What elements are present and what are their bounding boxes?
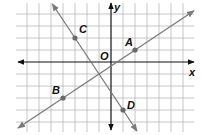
point-C [72, 35, 77, 40]
grid [16, 3, 194, 132]
coordinate-plane-svg: x y O ABCD [0, 0, 203, 135]
point-B [60, 95, 65, 100]
lines [18, 4, 194, 131]
coordinate-plane-diagram: x y O ABCD [0, 0, 203, 135]
point-label-C: C [79, 23, 88, 35]
y-axis-label: y [113, 1, 121, 13]
point-D [120, 107, 125, 112]
origin-label: O [100, 50, 109, 62]
point-label-B: B [52, 84, 60, 96]
x-axis-label: x [188, 66, 196, 78]
point-A [132, 47, 137, 52]
point-label-D: D [127, 99, 135, 111]
point-label-A: A [124, 36, 133, 48]
